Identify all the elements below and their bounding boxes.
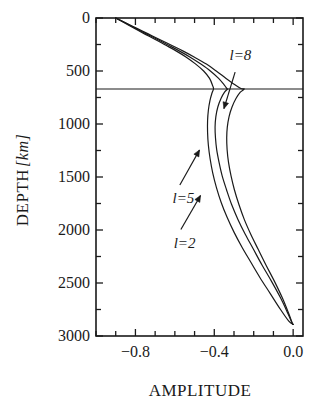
y-tick-label: 1000 — [30, 116, 90, 132]
y-axis-unit-close: ] — [14, 134, 31, 141]
curve-l8 — [116, 18, 293, 324]
y-tick-label: 3000 — [30, 328, 90, 344]
curve-l2 — [116, 18, 293, 324]
l8-annotation-label: l=8 — [230, 48, 252, 63]
x-tick-label: −0.8 — [105, 344, 165, 360]
y-tick-label: 2000 — [30, 222, 90, 238]
l2-annotation-label: l=2 — [174, 236, 196, 251]
y-axis-unit-open: [ — [14, 160, 31, 167]
axis-ticks — [96, 18, 303, 336]
axes-frame — [96, 18, 303, 336]
y-tick-label: 500 — [30, 63, 90, 79]
l5-annotation-arrow — [180, 150, 200, 185]
x-tick-label: −0.4 — [184, 344, 244, 360]
depth-amplitude-figure: DEPTH [km] AMPLITUDE 0500100015002000250… — [0, 0, 322, 408]
data-curves — [116, 18, 293, 324]
x-tick-label: 0.0 — [263, 344, 322, 360]
y-tick-label: 0 — [30, 10, 90, 26]
y-tick-label: 2500 — [30, 275, 90, 291]
x-axis-title: AMPLITUDE — [96, 381, 304, 401]
curve-l5 — [116, 18, 293, 324]
y-axis-unit: [km] — [14, 134, 32, 167]
y-tick-label: 1500 — [30, 169, 90, 185]
y-axis-unit-text: km — [14, 141, 31, 161]
l5-annotation-label: l=5 — [173, 191, 195, 206]
